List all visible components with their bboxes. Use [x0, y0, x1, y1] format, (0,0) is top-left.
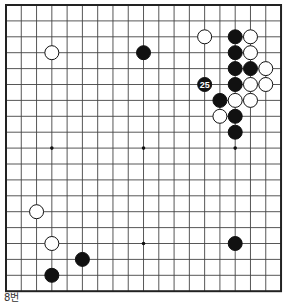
diagram-caption: 8번 [4, 292, 19, 304]
go-board[interactable]: 25 [0, 0, 283, 295]
white-stone[interactable] [45, 46, 59, 60]
black-stone[interactable] [243, 62, 257, 76]
white-stone[interactable] [30, 205, 44, 219]
black-stone[interactable] [228, 78, 242, 92]
white-stone[interactable] [228, 93, 242, 107]
black-stone[interactable] [228, 109, 242, 123]
white-stone[interactable] [243, 93, 257, 107]
star-point [142, 242, 146, 246]
white-stone[interactable] [243, 30, 257, 44]
white-stone[interactable] [243, 78, 257, 92]
black-stone[interactable] [137, 46, 151, 60]
black-stone[interactable] [228, 237, 242, 251]
white-stone[interactable] [259, 78, 273, 92]
black-stone[interactable] [213, 93, 227, 107]
black-stone[interactable] [228, 30, 242, 44]
star-point [142, 146, 146, 150]
white-stone[interactable] [243, 46, 257, 60]
black-stone[interactable] [228, 46, 242, 60]
white-stone[interactable] [259, 62, 273, 76]
white-stone[interactable] [198, 30, 212, 44]
white-stone[interactable] [213, 109, 227, 123]
black-stone[interactable] [75, 252, 89, 266]
black-stone[interactable] [45, 268, 59, 282]
star-point [233, 146, 237, 150]
black-stone[interactable] [228, 125, 242, 139]
star-point [50, 146, 54, 150]
black-stone[interactable] [228, 62, 242, 76]
move-number-label: 25 [200, 80, 210, 90]
white-stone[interactable] [45, 237, 59, 251]
